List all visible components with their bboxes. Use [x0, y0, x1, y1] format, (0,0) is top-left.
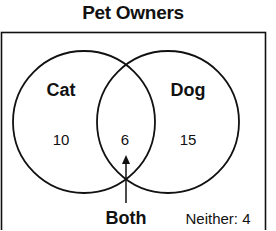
venn-diagram: [0, 0, 276, 230]
cat-only-count: 10: [53, 131, 70, 148]
both-label: Both: [106, 208, 147, 229]
dog-only-count: 15: [180, 131, 197, 148]
neither-label: Neither: 4: [185, 210, 250, 227]
cat-label: Cat: [46, 80, 75, 101]
both-arrow-icon: [122, 155, 130, 203]
dog-label: Dog: [171, 80, 206, 101]
universe-box: [2, 33, 266, 231]
cat-circle: [13, 51, 155, 193]
both-count: 6: [121, 131, 129, 148]
dog-circle: [97, 51, 239, 193]
